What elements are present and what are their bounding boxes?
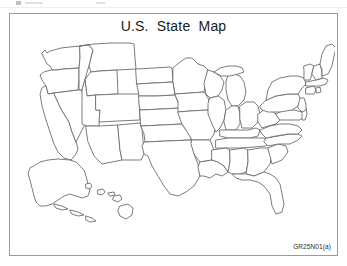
page-title: U.S. State Map xyxy=(10,18,337,34)
scan-artifact-rule xyxy=(0,7,347,8)
hawaii-island-big-island xyxy=(118,204,133,219)
us-map-svg xyxy=(14,36,335,246)
hawaii-island-oahu xyxy=(98,189,105,195)
hawaii-island-maui xyxy=(113,195,122,202)
state-south-dakota xyxy=(137,82,175,96)
scan-artifact-mark xyxy=(96,2,105,4)
figure-frame: U.S. State Map xyxy=(9,13,338,256)
alaska-aleutian-chain-1 xyxy=(54,204,68,210)
scan-artifact-top xyxy=(0,0,347,9)
state-texas xyxy=(142,140,200,196)
state-colorado xyxy=(96,94,140,122)
state-washington xyxy=(42,46,80,70)
state-new-mexico xyxy=(118,123,144,160)
state-rhode-island xyxy=(316,87,321,93)
hawaii-island-molokai xyxy=(108,192,115,196)
inset-hawaii xyxy=(86,183,133,219)
state-ohio xyxy=(240,102,260,128)
catalog-code-label: GR25N01(a) xyxy=(293,243,331,251)
state-nebraska xyxy=(139,95,180,110)
state-minnesota xyxy=(173,58,208,94)
state-wyoming xyxy=(85,70,118,96)
inset-alaska xyxy=(28,159,96,222)
alaska-aleutian-chain-3 xyxy=(86,216,96,222)
state-pennsylvania xyxy=(260,94,300,112)
scan-artifact-mark xyxy=(25,2,43,4)
state-iowa xyxy=(175,92,210,112)
state-connecticut xyxy=(306,86,316,94)
state-maine xyxy=(320,44,335,76)
state-michigan-upper xyxy=(214,66,244,76)
state-indiana xyxy=(224,106,240,130)
state-florida xyxy=(232,172,284,214)
alaska-aleutian-chain-2 xyxy=(70,210,84,216)
state-alabama xyxy=(228,148,248,174)
state-alaska xyxy=(28,159,90,206)
state-arizona xyxy=(86,125,122,164)
us-state-map xyxy=(14,36,335,246)
state-north-dakota xyxy=(136,67,173,84)
state-south-carolina xyxy=(268,144,288,164)
state-georgia xyxy=(246,148,272,176)
state-tennessee xyxy=(216,138,268,148)
scan-artifact-mark xyxy=(16,1,21,5)
hawaii-island-kauai xyxy=(86,183,92,189)
state-michigan-lower xyxy=(226,74,246,106)
state-kansas xyxy=(140,108,182,126)
